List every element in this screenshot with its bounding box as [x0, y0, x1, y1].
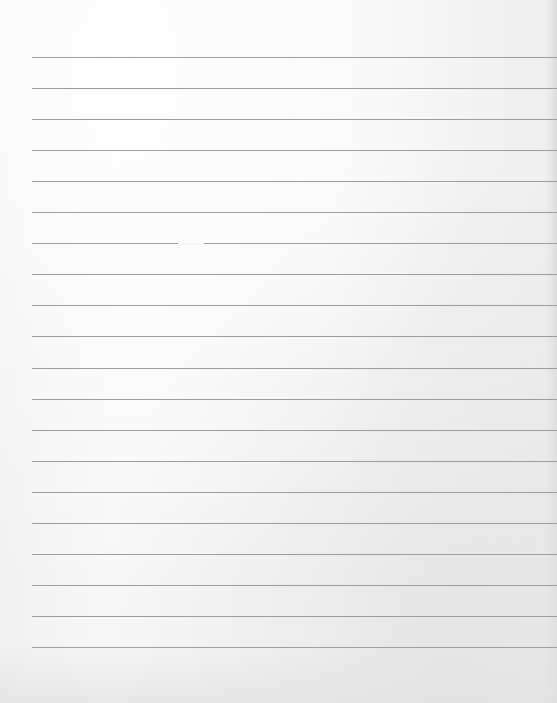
ruled-line [32, 88, 557, 89]
ruled-line [32, 274, 557, 275]
ruled-line [32, 430, 557, 431]
line-gap [178, 243, 204, 245]
ruled-line [32, 150, 557, 151]
ruled-line [32, 212, 557, 213]
ruled-line [32, 523, 557, 524]
ruled-line [32, 305, 557, 306]
ruled-line [32, 336, 557, 337]
ruled-line [32, 243, 557, 244]
ruled-line [32, 181, 557, 182]
ruled-line [32, 492, 557, 493]
ruled-line [32, 585, 557, 586]
ruled-line [32, 368, 557, 369]
ruled-line [32, 647, 557, 648]
ruled-line [32, 119, 557, 120]
ruled-line [32, 399, 557, 400]
lined-paper-sheet [0, 0, 557, 703]
ruled-line [32, 57, 557, 58]
ruled-line [32, 616, 557, 617]
ruled-line [32, 461, 557, 462]
ruled-line [32, 554, 557, 555]
